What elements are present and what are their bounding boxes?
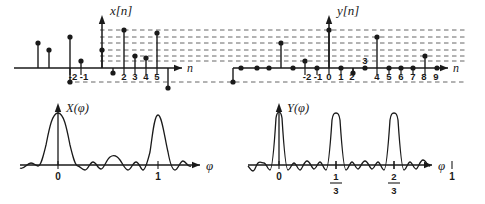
signal-label-x-of-n: x[n] [109,3,132,18]
tick-label-y-7: 7 [410,71,415,82]
phi-tick-label-0-right: 0 [276,171,282,182]
phi-tick-labels-left: 0 1 [55,171,161,182]
tick-label-y-3: 3 [362,55,367,66]
axis-label-phi-right: φ [438,158,445,173]
y-axis-arrowhead [99,15,105,24]
amplitude-guide-lines [67,30,465,82]
fraction-denominator-2: 3 [391,185,396,196]
tick-label-x-2: 2 [121,71,126,82]
tick-label-y-2: 2 [349,71,354,82]
phi-tick-label-1-right: 1 [449,171,455,182]
tick-label-x-4: 4 [143,71,149,82]
X-vertical-arrowhead [55,103,61,112]
phi-tick-label-two-thirds: 2 3 [388,171,400,196]
phi-tick-label-0-left: 0 [55,171,61,182]
signal-processing-figure: -2 -1 2 3 4 5 n x[n] [0,0,485,204]
fraction-denominator-1: 3 [333,185,338,196]
axis-label-n-left: n [187,61,193,75]
axis-label-phi-left: φ [206,158,213,173]
stems-positive [38,30,157,68]
tick-label-y-m1: -1 [314,71,323,82]
tick-label-y-4: 4 [374,71,380,82]
x-axis-arrowhead-right [440,65,448,71]
tick-label-y-6: 6 [398,71,403,82]
Y-spectrum-curve [248,112,430,171]
tick-label-y-m2: -2 [303,71,311,82]
panel-X-of-phi: 0 1 φ X(φ) [20,101,213,182]
tick-label-x-0: -2 [69,71,77,82]
tick-label-y-8: 8 [421,71,426,82]
axis-label-n-right: n [453,61,459,75]
panel-x-of-n: -2 -1 2 3 4 5 n x[n] [14,3,193,91]
tick-label-y-5: 5 [386,71,392,82]
x-axis-arrowhead [174,65,182,71]
figure-canvas: -2 -1 2 3 4 5 n x[n] [0,0,485,204]
fraction-numerator-1: 1 [333,171,339,182]
stems-positive-right [281,30,425,68]
Y-vertical-arrowhead [276,103,282,112]
y-axis-arrowhead-right [326,15,332,24]
fraction-numerator-2: 2 [391,171,396,182]
tick-label-x-3: 3 [132,71,137,82]
phi-axis-arrowhead-left [192,162,200,168]
panel-y-of-n: -2 -1 0 1 2 3 4 5 6 7 8 9 n y[n] [230,3,459,85]
X-spectrum-curve [20,113,191,170]
tick-label-y-1: 1 [338,71,344,82]
panel-Y-of-phi: 0 1 3 2 3 [248,0,455,196]
phi-tick-label-one-third: 1 3 [330,171,342,196]
signal-label-X-of-phi: X(φ) [65,101,89,115]
phi-tick-label-1-left: 1 [155,171,161,182]
tick-label-y-9: 9 [433,71,438,82]
signal-label-y-of-n: y[n] [335,3,359,18]
tick-label-y-0: 0 [326,71,331,82]
signal-label-Y-of-phi: Y(φ) [287,101,309,115]
tick-label-x-5: 5 [154,71,160,82]
tick-label-x-1: -1 [80,71,89,82]
